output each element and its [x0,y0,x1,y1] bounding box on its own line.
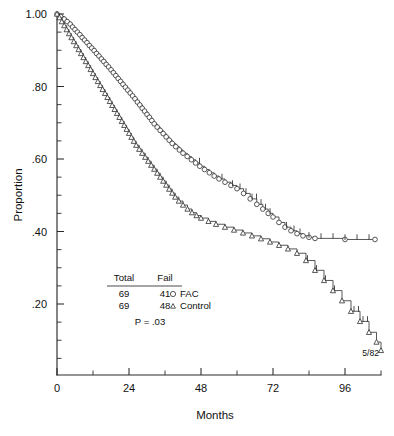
data-point-marker [207,170,212,175]
table-cell-fail-control: 48 [160,300,171,311]
data-point-marker [289,228,294,233]
data-point-marker [295,231,300,236]
curve-line-fac [57,14,375,239]
table-cell-fail-fac: 41 [160,288,171,299]
x-tick-label: 96 [339,382,351,394]
y-axis-tick-labels: .20.40.60.801.00 [26,8,47,310]
table-header-fail: Fail [157,272,172,283]
legend-label-control: Control [180,300,211,311]
data-point-marker [301,234,306,239]
data-point-marker [235,186,240,191]
x-tick-label: 48 [195,382,207,394]
x-axis-title: Months [196,409,234,421]
table-cell-total-fac: 69 [119,288,130,299]
data-point-marker [260,207,265,212]
legend-triangle-icon [171,304,176,309]
data-point-marker [378,348,383,353]
y-tick-label: .60 [32,153,47,165]
y-tick-label: 1.00 [26,8,47,20]
data-point-marker [212,174,217,179]
legend-label-fac: FAC [180,288,199,299]
data-point-marker [373,237,378,242]
data-point-marker [193,161,198,166]
table-cell-total-control: 69 [119,300,130,311]
kaplan-meier-chart: .20.40.60.801.00 024487296 Proportion Mo… [0,0,394,436]
y-axis-title: Proportion [12,168,24,221]
y-tick-label: .20 [32,298,47,310]
chart-legend: FAC Control [170,288,211,311]
data-point-marker [313,236,318,241]
data-point-marker [189,157,194,162]
x-axis-ticks [57,368,381,375]
data-point-marker [223,180,228,185]
x-tick-label: 24 [123,382,135,394]
survival-curve-figure: .20.40.60.801.00 024487296 Proportion Mo… [0,0,394,436]
y-tick-label: .80 [32,81,47,93]
x-tick-label: 72 [267,382,279,394]
y-axis-ticks [57,14,64,358]
y-tick-label: .40 [32,226,47,238]
table-header-total: Total [114,272,134,283]
date-annotation: 5/82 [362,348,379,358]
data-point-marker [181,151,186,156]
series-fac [55,12,378,242]
x-tick-label: 0 [54,382,60,394]
data-point-marker [185,154,190,159]
data-point-marker [241,191,246,196]
legend-circle-icon [170,291,175,296]
series-layer [54,11,383,352]
data-point-marker [254,202,259,207]
data-point-marker [271,215,276,220]
data-point-marker [277,220,282,225]
data-point-marker [197,164,202,169]
p-value-text: P = .03 [135,316,166,327]
data-point-marker [217,177,222,182]
stats-table: Total Fail 69 41 69 48 P = .03 [107,272,182,327]
data-point-marker [202,167,207,172]
x-axis-tick-labels: 024487296 [54,382,351,394]
